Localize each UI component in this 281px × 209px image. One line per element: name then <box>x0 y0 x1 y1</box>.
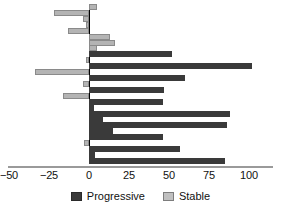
bar-stable-16 <box>63 93 89 99</box>
bar-progressive-11 <box>89 63 252 69</box>
bar-progressive-23 <box>89 134 163 140</box>
bar-progressive-25 <box>89 146 180 152</box>
bar-chart: −50−250255075100 Progressive Stable <box>0 0 281 209</box>
legend-swatch-stable-icon <box>163 192 174 201</box>
plot-area <box>0 4 281 164</box>
legend-swatch-progressive-icon <box>71 192 82 201</box>
x-tick-75: 75 <box>192 169 226 181</box>
x-tick-neg50: −50 <box>0 169 26 181</box>
x-tick-neg25: −25 <box>32 169 66 181</box>
bar-stable-5 <box>68 28 89 34</box>
legend-label-stable: Stable <box>179 190 210 202</box>
bar-progressive-9 <box>89 51 172 57</box>
bar-stable-12 <box>35 69 89 75</box>
bar-progressive-13 <box>89 75 185 81</box>
x-tick-25: 25 <box>112 169 146 181</box>
bar-progressive-19 <box>89 111 230 117</box>
bar-stable-1 <box>89 4 97 10</box>
x-tick-100: 100 <box>232 169 266 181</box>
x-tick-0: 0 <box>72 169 106 181</box>
x-axis-line <box>8 166 273 168</box>
legend-item-stable: Stable <box>163 190 210 202</box>
legend-item-progressive: Progressive <box>71 190 145 202</box>
chart-legend: Progressive Stable <box>0 190 281 202</box>
bar-progressive-27 <box>89 158 225 164</box>
legend-label-progressive: Progressive <box>87 190 145 202</box>
x-tick-50: 50 <box>152 169 186 181</box>
bar-progressive-15 <box>89 87 164 93</box>
bar-progressive-17 <box>89 99 163 105</box>
